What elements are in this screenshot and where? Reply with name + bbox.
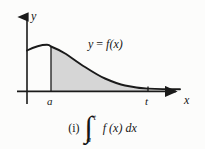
y-axis-label: y [31,10,36,22]
figure-caption: (i) ∫ t a f (x) dx [0,113,205,143]
integral-lower-limit: a [87,134,92,144]
curve-equation-label: y = f(x) [88,38,123,50]
integrand-expression: f (x) dx [103,121,137,136]
x-tick-label-a: a [47,96,53,107]
integral-expression: ∫ t a f (x) dx [85,113,137,143]
integral-upper-limit: t [94,112,97,122]
curve-label-arg: (x) [109,37,122,51]
curve-label-equals: = [93,37,106,51]
figure-container: y x a t y = f(x) (i) ∫ t a f (x) dx [0,0,205,149]
caption-index-label: (i) [68,121,79,136]
x-tick-label-t: t [145,96,148,107]
x-axis-label: x [184,94,189,106]
